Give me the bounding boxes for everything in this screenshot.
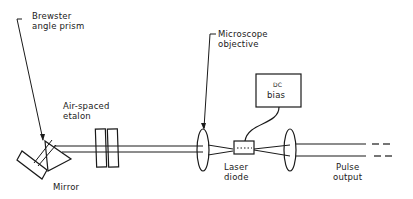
output-lens — [254, 129, 392, 171]
objective-label-1: Microscope — [218, 29, 268, 39]
mirror — [17, 140, 56, 179]
prism-label-1: Brewster — [32, 11, 72, 21]
prism-pointer — [17, 19, 45, 141]
laser-label-2: diode — [224, 172, 249, 182]
etalon-label-1: Air-spaced — [63, 101, 110, 111]
bias-label-2: bias — [267, 90, 286, 100]
output-label-1: Pulse — [336, 162, 359, 172]
objective-pointer — [201, 34, 216, 130]
laser-label-1: Laser — [224, 162, 248, 172]
mirror-label: Mirror — [53, 182, 80, 192]
laser-diode — [234, 141, 254, 154]
bias-label-1: DC — [273, 81, 282, 88]
etalon-label-2: etalon — [63, 111, 91, 121]
etalon — [95, 129, 118, 167]
objective-label-2: objective — [218, 39, 259, 49]
optical-setup-diagram: Brewster angle prism Air-spaced etalon M… — [0, 0, 413, 199]
prism-label-2: angle prism — [32, 21, 84, 31]
output-label-2: output — [333, 172, 363, 182]
